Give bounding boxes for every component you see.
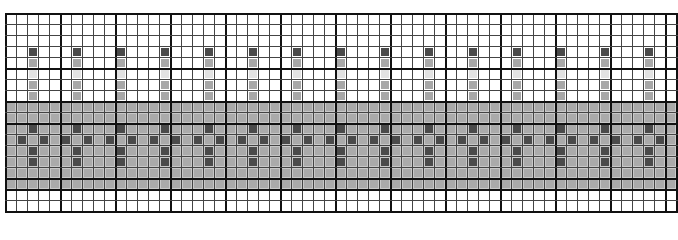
- band-stitch: [667, 180, 675, 188]
- band-stitch: [73, 169, 81, 177]
- band-stitch: [271, 103, 279, 111]
- band-stitch: [84, 180, 92, 188]
- band-stitch: [194, 114, 202, 122]
- band-stitch: [535, 169, 543, 177]
- band-stitch: [634, 180, 642, 188]
- stem-stitch-mid: [249, 92, 257, 100]
- band-stitch: [315, 114, 323, 122]
- band-stitch: [524, 103, 532, 111]
- band-stitch: [249, 114, 257, 122]
- band-stitch: [249, 180, 257, 188]
- motif-stitch-dark: [513, 147, 521, 155]
- stem-stitch-mid: [557, 81, 565, 89]
- stem-stitch-mid: [381, 81, 389, 89]
- band-stitch: [51, 136, 59, 144]
- band-stitch: [667, 114, 675, 122]
- band-stitch: [51, 125, 59, 133]
- band-stitch: [150, 114, 158, 122]
- motif-stitch-dark: [414, 136, 422, 144]
- motif-stitch-dark: [106, 136, 114, 144]
- stem-stitch-mid: [513, 59, 521, 67]
- motif-stitch-dark: [502, 136, 510, 144]
- band-stitch: [568, 103, 576, 111]
- band-stitch: [667, 158, 675, 166]
- band-stitch: [271, 169, 279, 177]
- band-stitch: [205, 136, 213, 144]
- band-stitch: [502, 147, 510, 155]
- motif-stitch-dark: [425, 147, 433, 155]
- stem-stitch-mid: [601, 59, 609, 67]
- band-stitch: [458, 147, 466, 155]
- band-stitch: [238, 147, 246, 155]
- motif-stitch-dark: [194, 136, 202, 144]
- band-stitch: [106, 158, 114, 166]
- band-stitch: [73, 136, 81, 144]
- band-stitch: [161, 180, 169, 188]
- band-stitch: [128, 125, 136, 133]
- band-stitch: [161, 114, 169, 122]
- stem-stitch-light: [73, 70, 81, 78]
- band-stitch: [535, 147, 543, 155]
- band-stitch: [271, 180, 279, 188]
- band-stitch: [425, 169, 433, 177]
- band-stitch: [579, 103, 587, 111]
- band-stitch: [491, 158, 499, 166]
- band-stitch: [634, 158, 642, 166]
- motif-stitch-dark: [205, 158, 213, 166]
- motif-stitch-dark: [381, 147, 389, 155]
- band-stitch: [546, 180, 554, 188]
- band-stitch: [667, 169, 675, 177]
- band-stitch: [117, 180, 125, 188]
- band-stitch: [634, 169, 642, 177]
- band-stitch: [590, 158, 598, 166]
- band-stitch: [128, 169, 136, 177]
- band-stitch: [227, 180, 235, 188]
- band-stitch: [260, 125, 268, 133]
- band-stitch: [315, 169, 323, 177]
- band-stitch: [348, 180, 356, 188]
- band-stitch: [337, 136, 345, 144]
- motif-stitch-dark: [205, 125, 213, 133]
- band-stitch: [458, 158, 466, 166]
- band-stitch: [414, 103, 422, 111]
- band-stitch: [216, 103, 224, 111]
- band-stitch: [29, 180, 37, 188]
- band-stitch: [172, 114, 180, 122]
- band-stitch: [40, 125, 48, 133]
- band-stitch: [557, 114, 565, 122]
- band-stitch: [293, 169, 301, 177]
- band-stitch: [315, 103, 323, 111]
- band-stitch: [370, 169, 378, 177]
- band-stitch: [271, 158, 279, 166]
- motif-stitch-dark: [260, 136, 268, 144]
- band-stitch: [425, 136, 433, 144]
- stem-stitch-mid: [161, 92, 169, 100]
- band-stitch: [238, 158, 246, 166]
- band-stitch: [425, 103, 433, 111]
- band-stitch: [304, 147, 312, 155]
- band-stitch: [150, 180, 158, 188]
- band-stitch: [172, 103, 180, 111]
- band-stitch: [370, 114, 378, 122]
- band-stitch: [480, 125, 488, 133]
- grid-line: [5, 156, 678, 157]
- band-stitch: [557, 103, 565, 111]
- band-stitch: [271, 136, 279, 144]
- band-stitch: [18, 147, 26, 155]
- motif-stitch-dark: [469, 147, 477, 155]
- band-stitch: [95, 136, 103, 144]
- band-stitch: [414, 180, 422, 188]
- band-stitch: [293, 103, 301, 111]
- stem-stitch-mid: [601, 92, 609, 100]
- motif-stitch-dark: [117, 147, 125, 155]
- band-stitch: [150, 103, 158, 111]
- band-stitch: [414, 147, 422, 155]
- band-stitch: [612, 180, 620, 188]
- band-stitch: [205, 180, 213, 188]
- band-stitch: [194, 169, 202, 177]
- band-stitch: [95, 158, 103, 166]
- band-stitch: [469, 169, 477, 177]
- band-stitch: [579, 158, 587, 166]
- stem-stitch-light: [117, 70, 125, 78]
- motif-stitch-dark: [557, 158, 565, 166]
